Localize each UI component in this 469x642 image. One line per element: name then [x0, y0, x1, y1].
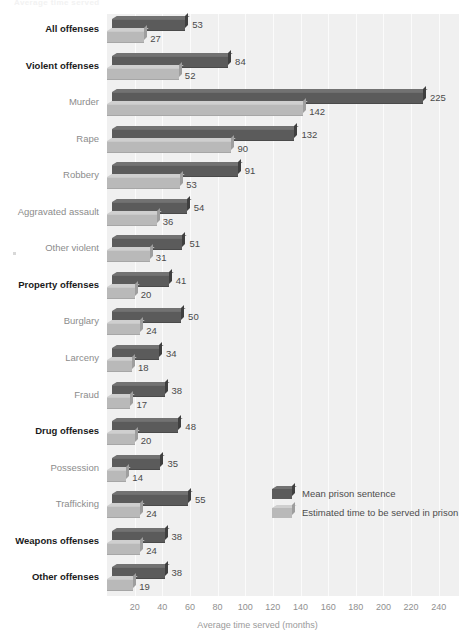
bar-row: Fraud3817: [0, 380, 469, 417]
value-label-mean-prison-sentence: 53: [192, 19, 203, 30]
value-label-mean-prison-sentence: 84: [235, 56, 246, 67]
category-label: Possession: [0, 462, 99, 473]
bar-estimated-time-served: [107, 287, 135, 299]
legend-item-estimated-time-served: Estimated time to be served in prison: [268, 506, 464, 525]
value-label-estimated-time-served: 19: [139, 581, 150, 592]
bar-estimated-time-served: [107, 433, 135, 445]
bar-row: Violent offenses8452: [0, 51, 469, 88]
bar-row: Aggravated assault5436: [0, 197, 469, 234]
category-label: Trafficking: [0, 498, 99, 509]
bar-row: Other offenses3819: [0, 562, 469, 599]
bar-estimated-time-served: [107, 250, 150, 262]
value-label-mean-prison-sentence: 132: [301, 129, 317, 140]
category-label: Larceny: [0, 352, 99, 363]
bar-estimated-time-served: [107, 104, 303, 116]
value-label-mean-prison-sentence: 55: [195, 494, 206, 505]
value-label-estimated-time-served: 90: [237, 143, 248, 154]
legend-label-mean-prison-sentence: Mean prison sentence: [302, 488, 395, 499]
legend-label-estimated-time-served: Estimated time to be served in prison: [302, 507, 458, 518]
bar-row: Larceny3418: [0, 343, 469, 380]
value-label-mean-prison-sentence: 48: [185, 421, 196, 432]
legend-item-mean-prison-sentence: Mean prison sentence: [268, 487, 464, 506]
category-label: Violent offenses: [0, 60, 99, 71]
legend-swatch-estimated-time-served: [272, 508, 292, 518]
value-label-estimated-time-served: 142: [309, 106, 325, 117]
value-label-estimated-time-served: 20: [141, 289, 152, 300]
value-label-mean-prison-sentence: 34: [166, 348, 177, 359]
bar-row: Burglary5024: [0, 306, 469, 343]
value-label-estimated-time-served: 18: [138, 362, 149, 373]
x-tick-160: 160: [314, 602, 342, 612]
bar-row: Murder225142: [0, 87, 469, 124]
bar-estimated-time-served: [107, 579, 133, 591]
x-tick-200: 200: [369, 602, 397, 612]
legend-swatch-mean-prison-sentence: [272, 489, 292, 499]
value-label-estimated-time-served: 24: [146, 508, 157, 519]
bar-estimated-time-served: [107, 470, 126, 482]
value-label-mean-prison-sentence: 38: [172, 385, 183, 396]
bar-estimated-time-served: [107, 214, 157, 226]
value-label-mean-prison-sentence: 38: [172, 531, 183, 542]
x-tick-40: 40: [148, 602, 176, 612]
value-label-estimated-time-served: 52: [185, 70, 196, 81]
x-tick-240: 240: [425, 602, 453, 612]
bar-row: All offenses5327: [0, 14, 469, 51]
bar-row: Rape13290: [0, 124, 469, 161]
value-label-mean-prison-sentence: 38: [172, 567, 183, 578]
bar-estimated-time-served: [107, 141, 231, 153]
bar-estimated-time-served: [107, 68, 179, 80]
bar-row: Weapons offenses3824: [0, 526, 469, 563]
value-label-mean-prison-sentence: 91: [245, 165, 256, 176]
category-label: All offenses: [0, 23, 99, 34]
bar-estimated-time-served: [107, 31, 144, 43]
category-label: Property offenses: [0, 279, 99, 290]
bar-estimated-time-served: [107, 397, 130, 409]
category-label: Aggravated assault: [0, 206, 99, 217]
bar-row: Drug offenses4820: [0, 416, 469, 453]
value-label-estimated-time-served: 27: [150, 33, 161, 44]
category-label: Burglary: [0, 315, 99, 326]
bar-chart: All offenses5327Violent offenses8452Murd…: [0, 0, 469, 642]
value-label-estimated-time-served: 24: [146, 325, 157, 336]
x-tick-80: 80: [204, 602, 232, 612]
category-label: Weapons offenses: [0, 535, 99, 546]
value-label-estimated-time-served: 36: [163, 216, 174, 227]
value-label-mean-prison-sentence: 35: [167, 458, 178, 469]
value-label-mean-prison-sentence: 225: [430, 92, 446, 103]
value-label-estimated-time-served: 24: [146, 545, 157, 556]
bar-row: Possession3514: [0, 453, 469, 490]
value-label-mean-prison-sentence: 51: [189, 238, 200, 249]
value-label-mean-prison-sentence: 54: [194, 202, 205, 213]
x-tick-120: 120: [259, 602, 287, 612]
x-tick-60: 60: [176, 602, 204, 612]
value-label-mean-prison-sentence: 41: [176, 275, 187, 286]
bar-estimated-time-served: [107, 543, 140, 555]
bar-estimated-time-served: [107, 177, 180, 189]
value-label-estimated-time-served: 53: [186, 179, 197, 190]
value-label-estimated-time-served: 31: [156, 252, 167, 263]
value-label-estimated-time-served: 20: [141, 435, 152, 446]
bar-row: Other violent5131: [0, 233, 469, 270]
bar-estimated-time-served: [107, 506, 140, 518]
category-label: Murder: [0, 96, 99, 107]
scan-artifact-speck: [13, 252, 16, 255]
chart-legend: Mean prison sentence Estimated time to b…: [268, 487, 464, 525]
category-label: Fraud: [0, 389, 99, 400]
x-axis-label: Average time served (months): [0, 620, 469, 630]
value-label-estimated-time-served: 17: [136, 399, 147, 410]
x-tick-20: 20: [121, 602, 149, 612]
category-label: Robbery: [0, 169, 99, 180]
value-label-estimated-time-served: 14: [132, 472, 143, 483]
x-tick-220: 220: [397, 602, 425, 612]
category-label: Drug offenses: [0, 425, 99, 436]
bar-row: Robbery9153: [0, 160, 469, 197]
category-label: Rape: [0, 133, 99, 144]
x-tick-140: 140: [287, 602, 315, 612]
value-label-mean-prison-sentence: 50: [188, 311, 199, 322]
x-tick-180: 180: [342, 602, 370, 612]
bar-row: Property offenses4120: [0, 270, 469, 307]
bar-estimated-time-served: [107, 323, 140, 335]
bar-estimated-time-served: [107, 360, 132, 372]
category-label: Other offenses: [0, 571, 99, 582]
x-tick-100: 100: [231, 602, 259, 612]
